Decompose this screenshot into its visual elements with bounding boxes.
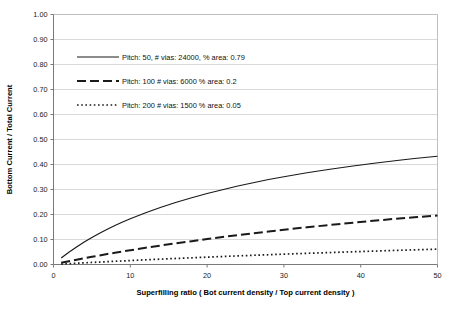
y-tick-label: 0.20 [33,210,47,219]
y-tick-label: 0.10 [33,235,47,244]
x-axis-title: Superfilling ratio ( Bot current density… [137,288,355,297]
y-axis-title: Bottom Current / Total Current [5,84,14,194]
y-tick-label: 0.90 [33,35,47,44]
y-tick-label: 0.00 [33,260,47,269]
chart-background [0,0,459,313]
chart-container: 0.000.100.200.300.400.500.600.700.800.90… [0,0,459,313]
y-tick-label: 0.80 [33,60,47,69]
x-tick-label: 20 [203,271,211,280]
y-tick-label: 1.00 [33,10,47,19]
legend-label: Pitch: 200 # vias: 1500 % area: 0.05 [122,101,241,110]
y-tick-label: 0.30 [33,185,47,194]
x-tick-label: 0 [51,271,55,280]
x-tick-label: 30 [280,271,288,280]
legend-label: Pitch: 100 # vias: 6000 % area: 0.2 [122,77,237,86]
x-tick-label: 40 [357,271,365,280]
y-tick-label: 0.60 [33,110,47,119]
y-tick-label: 0.70 [33,85,47,94]
x-tick-label: 10 [126,271,134,280]
legend-label: Pitch: 50, # vias: 24000, % area: 0.79 [122,53,245,62]
line-chart: 0.000.100.200.300.400.500.600.700.800.90… [0,0,459,313]
y-tick-label: 0.40 [33,160,47,169]
x-tick-label: 50 [433,271,441,280]
y-tick-label: 0.50 [33,135,47,144]
